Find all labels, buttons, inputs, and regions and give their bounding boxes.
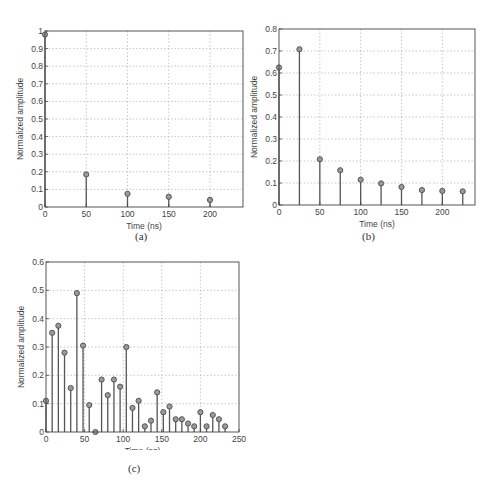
stem-marker (80, 343, 85, 348)
stem-marker (99, 377, 104, 382)
stem-marker (56, 323, 61, 328)
caption-a: (a) (135, 230, 147, 242)
figure-caption-truncated (22, 484, 482, 491)
x-tick-label: 200 (193, 434, 207, 444)
y-axis-label: Normalized amplitude (16, 306, 26, 388)
stem-marker (148, 418, 153, 423)
x-tick-label: 100 (116, 434, 130, 444)
x-tick-label: 0 (43, 209, 48, 219)
stem-marker (297, 47, 302, 52)
x-tick-label: 100 (354, 207, 368, 217)
stem-marker (207, 197, 212, 202)
stem-marker (317, 157, 322, 162)
stems (276, 47, 465, 205)
x-tick-label: 150 (394, 207, 408, 217)
stem-marker (216, 417, 221, 422)
stem-marker (192, 424, 197, 429)
y-tick-label: 0.6 (31, 96, 43, 106)
y-tick-label: 0.6 (265, 68, 277, 78)
y-tick-label: 0.3 (31, 149, 43, 159)
x-tick-label: 200 (203, 209, 217, 219)
y-tick-label: 0.4 (265, 112, 277, 122)
x-tick-label: 50 (82, 209, 92, 219)
stem-marker (166, 194, 171, 199)
x-tick-label: 50 (315, 207, 325, 217)
stem-marker (210, 412, 215, 417)
tick-labels: 05010015020000.10.20.30.40.50.60.70.80.9… (31, 26, 217, 219)
y-tick-label: 0 (272, 200, 277, 210)
y-tick-label: 0.9 (31, 44, 43, 54)
stem-marker (198, 410, 203, 415)
y-tick-label: 0 (39, 427, 44, 437)
stem-marker (125, 191, 130, 196)
stem-marker (111, 377, 116, 382)
x-tick-label: 100 (120, 209, 134, 219)
chart-b: 05010015020000.10.20.30.40.50.60.70.8Tim… (250, 0, 496, 240)
grid (46, 262, 239, 432)
x-tick-label: 150 (155, 434, 169, 444)
stem-marker (130, 405, 135, 410)
stem-marker (399, 184, 404, 189)
stem-marker (87, 402, 92, 407)
y-tick-label: 0.5 (31, 114, 43, 124)
stem-marker (118, 384, 123, 389)
x-tick-label: 0 (44, 434, 49, 444)
y-tick-label: 0.6 (32, 257, 44, 267)
stem-marker (155, 390, 160, 395)
stem-marker (167, 404, 172, 409)
y-tick-label: 0.2 (32, 370, 44, 380)
x-tick-label: 50 (80, 434, 90, 444)
stem-marker (105, 393, 110, 398)
y-axis-label: Normalized amplitude (250, 76, 259, 158)
y-tick-label: 0.3 (265, 134, 277, 144)
stem-marker (185, 421, 190, 426)
y-tick-label: 0.8 (265, 24, 277, 34)
stem-marker (62, 350, 67, 355)
x-tick-label: 150 (162, 209, 176, 219)
y-tick-label: 0.1 (31, 184, 43, 194)
y-tick-label: 0.5 (32, 285, 44, 295)
y-tick-label: 0.7 (265, 46, 277, 56)
y-tick-label: 0.1 (265, 178, 277, 188)
stem-marker (161, 410, 166, 415)
y-axis-label: Normalized amplitude (15, 78, 25, 160)
stem-marker (50, 330, 55, 335)
stem-marker (419, 187, 424, 192)
stem-marker (358, 177, 363, 182)
y-tick-label: 0.7 (31, 79, 43, 89)
y-tick-label: 0.2 (31, 167, 43, 177)
stem-marker (460, 189, 465, 194)
grid (279, 29, 475, 205)
x-tick-label: 200 (435, 207, 449, 217)
y-tick-label: 0.5 (265, 90, 277, 100)
stem-marker (204, 424, 209, 429)
grid (45, 31, 243, 207)
y-tick-label: 0.3 (32, 342, 44, 352)
caption-b: (b) (362, 230, 375, 242)
stem-marker (68, 385, 73, 390)
chart-c: 05010015020025000.10.20.30.40.50.6Time (… (0, 250, 270, 450)
y-tick-label: 0.4 (31, 132, 43, 142)
y-tick-label: 1 (38, 26, 43, 36)
y-tick-label: 0.8 (31, 61, 43, 71)
x-axis-label: Time (ns) (359, 219, 395, 229)
y-tick-label: 0.1 (32, 399, 44, 409)
y-tick-label: 0.2 (265, 156, 277, 166)
y-tick-label: 0 (38, 202, 43, 212)
stem-marker (223, 424, 228, 429)
x-tick-label: 0 (277, 207, 282, 217)
stem-marker (142, 424, 147, 429)
y-tick-label: 0.4 (32, 314, 44, 324)
stem-marker (179, 417, 184, 422)
stem-marker (124, 344, 129, 349)
stem-marker (440, 188, 445, 193)
caption-c: (c) (128, 462, 140, 474)
stem-marker (338, 168, 343, 173)
stem-marker (136, 398, 141, 403)
stem-marker (378, 181, 383, 186)
stem-marker (74, 291, 79, 296)
stem-marker (84, 172, 89, 177)
x-axis-label: Time (ns) (125, 446, 161, 450)
stem-marker (173, 417, 178, 422)
chart-a: 05010015020000.10.20.30.40.50.60.70.80.9… (0, 0, 250, 240)
